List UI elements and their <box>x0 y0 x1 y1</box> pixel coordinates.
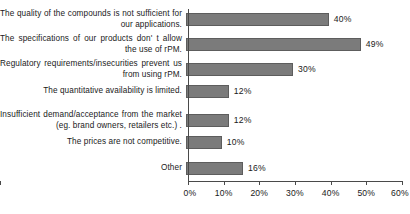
bar-value-label: 10% <box>227 136 245 149</box>
category-label: Insufficient demand/acceptance from the … <box>0 110 186 131</box>
horizontal-bar-chart: The quality of the compounds is not suff… <box>0 0 410 214</box>
bar-value-label: 12% <box>234 85 252 98</box>
bar-row: The quantitative availability is limited… <box>0 85 410 98</box>
bar <box>186 85 229 98</box>
bar <box>186 38 361 51</box>
bar <box>186 162 243 175</box>
bar <box>186 63 293 76</box>
bar <box>186 136 222 149</box>
bar-container: 40% <box>186 13 410 26</box>
bar-container: 16% <box>186 162 410 175</box>
x-axis-tick <box>295 181 296 185</box>
category-label: Regulatory requirements/insecurities pre… <box>0 59 186 80</box>
bar-container: 12% <box>186 85 410 98</box>
bar-value-label: 49% <box>366 38 384 51</box>
x-axis-tick-label: 10% <box>215 188 233 199</box>
y-axis-line <box>188 9 189 181</box>
bar-container: 49% <box>186 38 410 51</box>
bar-row: The prices are not competitive. 10% <box>0 136 410 149</box>
bar <box>186 114 229 127</box>
x-axis-tick-label: 60% <box>391 188 409 199</box>
category-label: The quantitative availability is limited… <box>0 86 186 97</box>
category-label: The prices are not competitive. <box>0 137 186 148</box>
bar-container: 10% <box>186 136 410 149</box>
bar-row: Other 16% <box>0 162 410 175</box>
category-label: Other <box>0 163 186 174</box>
bar-row: Regulatory requirements/insecurities pre… <box>0 59 410 80</box>
bar-row: The quality of the compounds is not suff… <box>0 9 410 30</box>
bar <box>186 13 329 26</box>
x-axis-tick-label: 20% <box>250 188 268 199</box>
bar-container: 12% <box>186 114 410 127</box>
category-label: The quality of the compounds is not suff… <box>0 9 186 30</box>
x-axis-tick-label: 40% <box>322 188 340 199</box>
x-axis-tick <box>366 181 367 185</box>
x-axis-tick <box>331 181 332 185</box>
bar-container: 30% <box>186 63 410 76</box>
x-axis-tick-label: 50% <box>357 188 375 199</box>
bar-value-label: 30% <box>298 63 316 76</box>
x-axis-tick <box>402 181 403 185</box>
bar-value-label: 12% <box>234 114 252 127</box>
bar-row: The specifications of our products don' … <box>0 34 410 55</box>
x-axis-tick-label: 0% <box>184 188 197 199</box>
x-axis-tick-label: 30% <box>286 188 304 199</box>
x-axis-tick <box>224 181 225 185</box>
bar-value-label: 40% <box>334 13 352 26</box>
chart-plot-area: The quality of the compounds is not suff… <box>0 9 410 181</box>
x-axis-tick <box>188 181 189 185</box>
x-axis-tick <box>0 181 1 185</box>
bar-row: Insufficient demand/acceptance from the … <box>0 110 410 131</box>
bar-value-label: 16% <box>248 162 266 175</box>
x-axis-tick <box>259 181 260 185</box>
category-label: The specifications of our products don' … <box>0 34 186 55</box>
